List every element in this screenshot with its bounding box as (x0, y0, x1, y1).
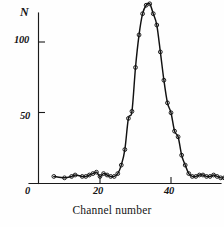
axes-group (29, 13, 221, 184)
plot-canvas (0, 0, 224, 227)
x-tick-label-40: 40 (164, 186, 174, 197)
figure-panel: N 100 50 0 20 40 Channel number (0, 0, 224, 227)
x-tick-label-20: 20 (93, 186, 103, 197)
data-point-markers (52, 2, 224, 180)
x-axis-title: Channel number (0, 205, 224, 217)
y-tick-label-50: 50 (20, 111, 30, 122)
spectrum-curve (54, 3, 224, 178)
y-tick-label-100: 100 (14, 35, 29, 46)
y-axis-label: N (20, 6, 28, 18)
x-tick-label-0: 0 (25, 186, 30, 197)
